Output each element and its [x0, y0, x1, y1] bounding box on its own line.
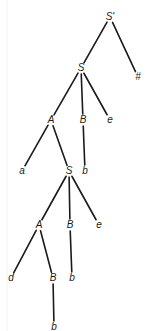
tree-node-label: a — [19, 165, 25, 176]
tree-node-label: S' — [106, 11, 116, 22]
tree-node-label: A — [35, 219, 43, 230]
tree-edge — [41, 231, 52, 272]
parse-tree-diagram: S'S#ABeaSbABedBbb — [0, 0, 147, 331]
tree-edge — [54, 73, 78, 115]
tree-edge — [72, 176, 96, 220]
tree-node-label: b — [82, 165, 88, 176]
tree-edge — [70, 231, 72, 272]
tree-edge — [25, 125, 48, 166]
tree-node-label: B — [67, 219, 74, 230]
tree-node-label: b — [69, 272, 75, 283]
tree-edge — [53, 126, 67, 166]
tree-edge — [42, 176, 66, 220]
tree-edge — [53, 284, 54, 321]
tree-nodes: S'S#ABeaSbABedBbb — [8, 11, 141, 331]
tree-edge — [84, 22, 107, 63]
tree-node-label: S — [78, 62, 85, 73]
tree-edge — [69, 177, 70, 219]
tree-node-label: b — [51, 321, 57, 331]
tree-edge — [84, 73, 107, 115]
tree-edge — [83, 126, 85, 165]
tree-node-label: # — [135, 71, 141, 82]
tree-edge — [14, 230, 36, 272]
tree-node-label: B — [80, 114, 87, 125]
tree-edge — [81, 74, 83, 114]
tree-node-label: S — [66, 165, 73, 176]
tree-node-label: e — [107, 114, 113, 125]
tree-node-label: B — [50, 272, 57, 283]
tree-node-label: e — [96, 219, 102, 230]
tree-node-label: d — [8, 272, 14, 283]
tree-edge — [113, 22, 136, 71]
tree-node-label: A — [47, 114, 55, 125]
